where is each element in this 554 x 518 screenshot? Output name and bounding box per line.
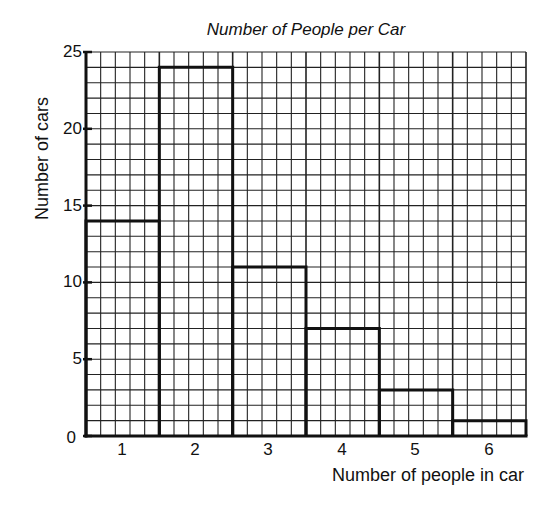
plot-area (0, 0, 554, 518)
bar-6 (453, 421, 526, 436)
bar-3 (233, 267, 306, 436)
bar-5 (379, 390, 452, 436)
bar-4 (306, 328, 379, 436)
